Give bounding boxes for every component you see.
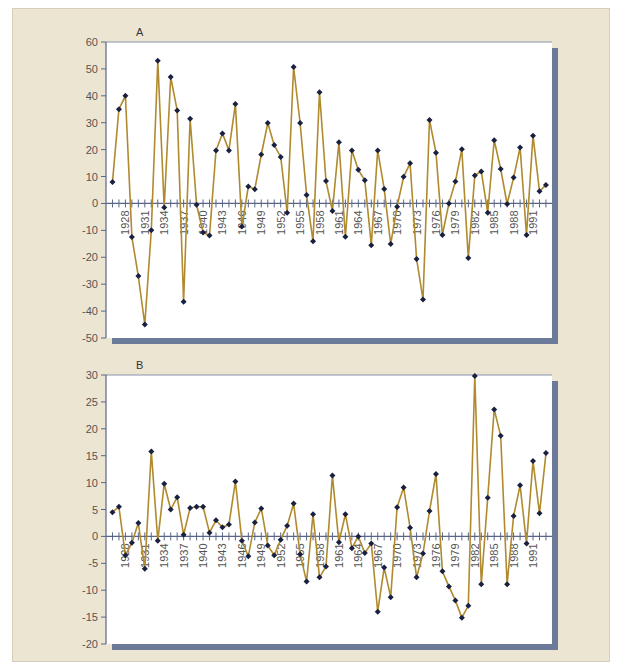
y-tick-label: 0 xyxy=(92,197,98,209)
y-tick-label: 10 xyxy=(86,477,98,489)
y-tick-label: 60 xyxy=(86,36,98,48)
x-tick-label: 1988 xyxy=(508,210,520,234)
figure-canvas: 6050403020100-10-20-30-40-50A19281931193… xyxy=(0,0,626,669)
x-tick-label: 1928 xyxy=(119,210,131,234)
y-tick-label: -15 xyxy=(82,611,98,623)
x-tick-label: 1979 xyxy=(449,210,461,234)
x-tick-label: 1940 xyxy=(197,543,209,567)
y-tick-label: 20 xyxy=(86,423,98,435)
x-tick-label: 1937 xyxy=(178,210,190,234)
x-tick-label: 1934 xyxy=(158,543,170,567)
chart-panel-a: 6050403020100-10-20-30-40-50A19281931193… xyxy=(82,26,558,344)
y-tick-label: -30 xyxy=(82,278,98,290)
y-tick-label: 5 xyxy=(92,504,98,516)
y-tick-label: -40 xyxy=(82,305,98,317)
x-tick-label: 1943 xyxy=(216,210,228,234)
x-tick-label: 1955 xyxy=(294,210,306,234)
x-tick-label: 1943 xyxy=(216,543,228,567)
x-tick-label: 1931 xyxy=(139,210,151,234)
y-tick-label: -20 xyxy=(82,251,98,263)
x-tick-label: 1958 xyxy=(314,543,326,567)
x-tick-label: 1991 xyxy=(527,210,539,234)
y-tick-label: -20 xyxy=(82,638,98,650)
x-tick-label: 1958 xyxy=(314,210,326,234)
panel-label: A xyxy=(136,26,144,38)
y-tick-label: 30 xyxy=(86,369,98,381)
x-tick-label: 1964 xyxy=(352,210,364,234)
x-tick-label: 1961 xyxy=(333,543,345,567)
x-tick-label: 1979 xyxy=(449,543,461,567)
x-tick-label: 1985 xyxy=(488,543,500,567)
x-tick-label: 1991 xyxy=(527,543,539,567)
y-tick-label: 20 xyxy=(86,144,98,156)
x-tick-label: 1949 xyxy=(255,543,267,567)
y-tick-label: -5 xyxy=(88,557,98,569)
chart-panel-b: 302520151050-5-10-15-20B1928193119341937… xyxy=(82,359,558,650)
y-tick-label: 25 xyxy=(86,396,98,408)
y-tick-label: -10 xyxy=(82,584,98,596)
x-tick-label: 1949 xyxy=(255,210,267,234)
y-tick-label: -50 xyxy=(82,332,98,344)
y-tick-label: -10 xyxy=(82,224,98,236)
x-tick-label: 1952 xyxy=(275,210,287,234)
y-tick-label: 50 xyxy=(86,63,98,75)
x-tick-label: 1934 xyxy=(158,210,170,234)
x-tick-label: 1973 xyxy=(411,210,423,234)
panel-label: B xyxy=(136,359,143,371)
x-tick-label: 1937 xyxy=(178,543,190,567)
y-tick-label: 15 xyxy=(86,450,98,462)
y-tick-label: 10 xyxy=(86,171,98,183)
y-tick-label: 30 xyxy=(86,117,98,129)
y-tick-label: 0 xyxy=(92,530,98,542)
x-tick-label: 1985 xyxy=(488,210,500,234)
y-tick-label: 40 xyxy=(86,90,98,102)
